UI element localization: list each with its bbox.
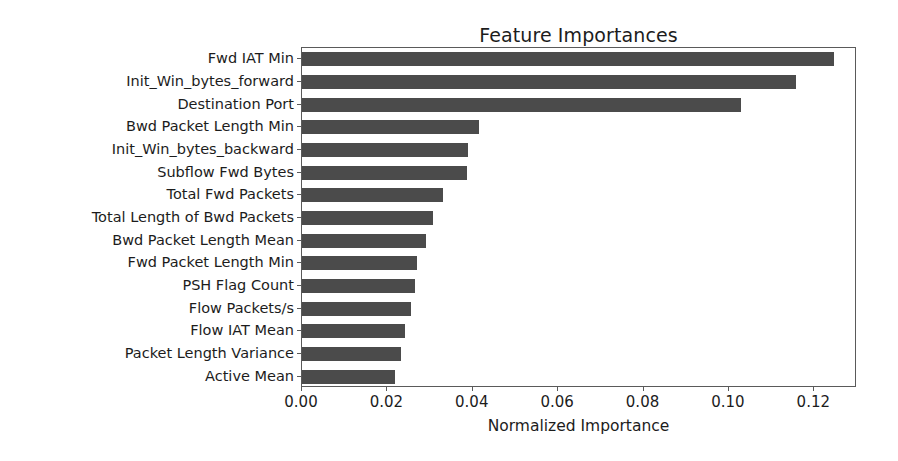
bar: [302, 256, 417, 270]
y-axis-tick-label: Bwd Packet Length Min: [126, 119, 294, 133]
x-axis-tick-mark: [386, 387, 387, 391]
bar-fill: [302, 98, 741, 112]
y-axis-tick-mark: [297, 308, 301, 309]
bar-fill: [302, 256, 417, 270]
y-axis-tick-label: Fwd Packet Length Min: [128, 255, 294, 269]
bar: [302, 234, 426, 248]
x-axis-label: Normalized Importance: [301, 417, 856, 435]
bar-fill: [302, 188, 443, 202]
y-axis-tick-mark: [297, 217, 301, 218]
y-axis-tick-mark: [297, 126, 301, 127]
x-axis-tick-mark: [643, 387, 644, 391]
bar: [302, 302, 411, 316]
y-axis-tick-label: Init_Win_bytes_forward: [126, 74, 294, 88]
figure-canvas: Feature Importances Fwd IAT MinInit_Win_…: [0, 0, 898, 461]
bar-fill: [302, 52, 834, 66]
x-axis-tick-mark: [813, 387, 814, 391]
y-axis-tick-label: Total Fwd Packets: [167, 187, 294, 201]
x-axis-tick-label: 0.08: [626, 393, 659, 411]
bar: [302, 98, 741, 112]
bar: [302, 166, 467, 180]
y-axis-tick-label: Packet Length Variance: [125, 346, 294, 360]
x-axis-tick-mark: [301, 387, 302, 391]
bar: [302, 279, 415, 293]
bar-fill: [302, 234, 426, 248]
bar: [302, 370, 395, 384]
bar-fill: [302, 143, 468, 157]
bar: [302, 188, 443, 202]
y-axis-tick-label: Flow IAT Mean: [190, 323, 294, 337]
bar-fill: [302, 166, 467, 180]
y-axis-tick-mark: [297, 172, 301, 173]
x-axis-tick-label: 0.04: [455, 393, 488, 411]
y-axis-tick-label: Bwd Packet Length Mean: [112, 233, 294, 247]
y-axis-tick-mark: [297, 81, 301, 82]
y-axis-tick-mark: [297, 330, 301, 331]
bar-fill: [302, 279, 415, 293]
x-axis-tick-label: 0.06: [540, 393, 573, 411]
y-axis-tick-mark: [297, 285, 301, 286]
y-axis-tick-mark: [297, 149, 301, 150]
x-axis-tick-label: 0.02: [370, 393, 403, 411]
bar: [302, 347, 401, 361]
x-axis-tick-label: 0.12: [797, 393, 830, 411]
y-axis-tick-mark: [297, 104, 301, 105]
bar: [302, 75, 796, 89]
plot-area: [301, 47, 856, 387]
y-axis-tick-label: Active Mean: [205, 369, 294, 383]
y-axis-tick-label: Flow Packets/s: [189, 301, 294, 315]
bar: [302, 324, 405, 338]
bar-fill: [302, 120, 479, 134]
y-axis-tick-label: PSH Flag Count: [182, 278, 294, 292]
y-axis-tick-labels: Fwd IAT MinInit_Win_bytes_forwardDestina…: [0, 47, 294, 387]
y-axis-tick-mark: [297, 240, 301, 241]
bar-fill: [302, 370, 395, 384]
y-axis-tick-label: Fwd IAT Min: [208, 51, 294, 65]
y-axis-tick-mark: [297, 262, 301, 263]
chart-title: Feature Importances: [301, 24, 856, 46]
bar: [302, 211, 433, 225]
y-axis-tick-label: Init_Win_bytes_backward: [112, 142, 294, 156]
y-axis-tick-label: Subflow Fwd Bytes: [157, 165, 294, 179]
x-axis-tick-label: 0.00: [284, 393, 317, 411]
y-axis-tick-mark: [297, 376, 301, 377]
x-axis-tick-mark: [728, 387, 729, 391]
y-axis-tick-label: Destination Port: [177, 97, 294, 111]
bar: [302, 120, 479, 134]
x-axis-tick-mark: [557, 387, 558, 391]
bar-fill: [302, 347, 401, 361]
bar: [302, 143, 468, 157]
bar-fill: [302, 302, 411, 316]
x-axis-tick-mark: [472, 387, 473, 391]
bar-fill: [302, 324, 405, 338]
x-axis-tick-label: 0.10: [711, 393, 744, 411]
y-axis-tick-mark: [297, 194, 301, 195]
y-axis-tick-label: Total Length of Bwd Packets: [92, 210, 294, 224]
y-axis-tick-mark: [297, 58, 301, 59]
bar-fill: [302, 75, 796, 89]
bar: [302, 52, 834, 66]
y-axis-tick-mark: [297, 353, 301, 354]
bar-fill: [302, 211, 433, 225]
